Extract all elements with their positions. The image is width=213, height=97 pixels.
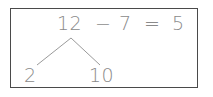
- bond-branch-left: [37, 38, 71, 65]
- problem-box: 12 − 7 = 5 2 10: [10, 8, 198, 88]
- bond-branch-right: [71, 38, 100, 65]
- math-worksheet-problem: 12 − 7 = 5 2 10: [0, 0, 213, 97]
- bond-part-left: 2: [24, 64, 37, 86]
- bond-part-right: 10: [89, 64, 114, 86]
